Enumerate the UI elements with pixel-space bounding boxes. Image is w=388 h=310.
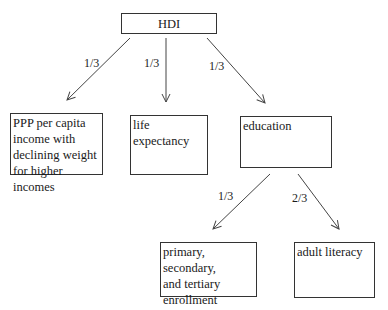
node-literacy: adult literacy [294,242,375,298]
node-income-line: for higher incomes [13,163,100,195]
node-income-line: declining weight [13,147,100,163]
node-enrollment-line: primary, secondary, [163,244,254,276]
node-income-line: PPP per capita [13,115,100,131]
node-education: education [240,116,332,168]
edge-weight-life: 1/3 [144,56,159,71]
node-literacy-line: adult literacy [297,244,372,260]
node-life-line: expectancy [133,133,205,149]
node-income: PPP per capita income with declining wei… [10,113,103,175]
node-enrollment: primary, secondary, and tertiary enrollm… [160,242,257,297]
edge-weight-education: 1/3 [209,59,224,74]
node-enrollment-line: enrollment [163,292,254,308]
node-income-line: income with [13,131,100,147]
node-hdi: HDI [121,13,217,34]
edge-weight-income: 1/3 [84,56,99,71]
node-life: life expectancy [130,115,208,175]
node-hdi-label: HDI [158,17,180,31]
edge-weight-literacy: 2/3 [292,191,307,206]
node-education-line: education [243,118,329,134]
node-enrollment-line: and tertiary [163,276,254,292]
node-life-line: life [133,117,205,133]
edge-weight-enrollment: 1/3 [218,189,233,204]
